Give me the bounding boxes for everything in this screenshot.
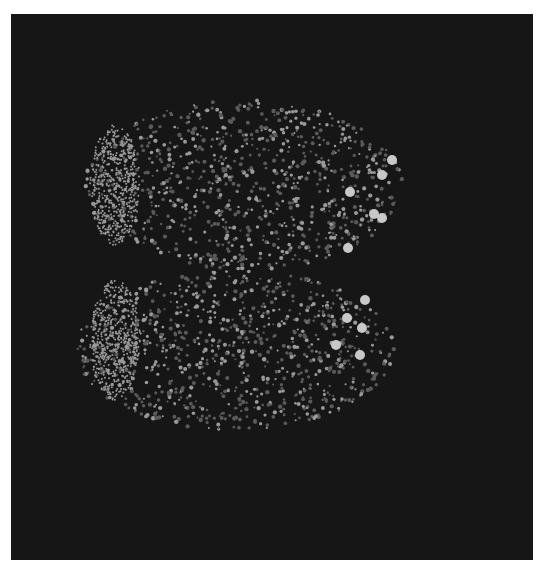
cell-scatter xyxy=(11,14,533,560)
micrograph-image xyxy=(11,14,533,560)
